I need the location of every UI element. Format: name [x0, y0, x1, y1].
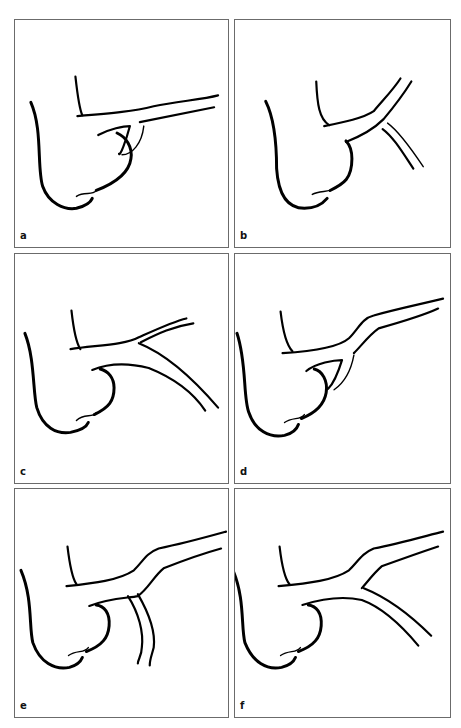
panel-a: a — [14, 19, 229, 248]
panel-b: b — [234, 19, 451, 248]
vessel-drawing-c — [15, 254, 228, 483]
panel-c: c — [14, 253, 229, 484]
panel-label-c: c — [20, 467, 26, 477]
panel-label-a: a — [20, 231, 27, 241]
vessel-drawing-d — [235, 254, 450, 483]
panel-label-e: e — [20, 701, 27, 711]
panel-d: d — [234, 253, 451, 484]
panel-label-d: d — [240, 467, 247, 477]
panel-e: e — [14, 488, 229, 718]
vessel-drawing-b — [235, 20, 450, 247]
vessel-drawing-f — [235, 489, 450, 717]
panel-label-f: f — [240, 701, 244, 711]
panel-f: f — [234, 488, 451, 718]
vessel-drawing-a — [15, 20, 228, 247]
panel-label-b: b — [240, 231, 247, 241]
vessel-drawing-e — [15, 489, 228, 717]
